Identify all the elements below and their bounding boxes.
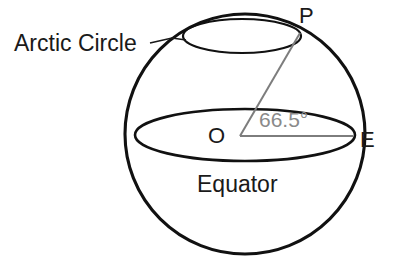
origin-label: O — [208, 123, 225, 148]
pole-label: P — [299, 3, 314, 28]
angle-value-label: 66.5° — [259, 108, 308, 131]
arctic-circle-label: Arctic Circle — [14, 30, 137, 56]
arctic-circle-ellipse — [183, 19, 301, 53]
sphere-diagram: Arctic Circle P O E Equator 66.5° — [0, 0, 398, 267]
equator-label: Equator — [197, 171, 278, 197]
equator-point-label: E — [360, 127, 375, 152]
diagram-canvas: Arctic Circle P O E Equator 66.5° — [0, 0, 398, 267]
sphere-outline — [125, 14, 365, 254]
